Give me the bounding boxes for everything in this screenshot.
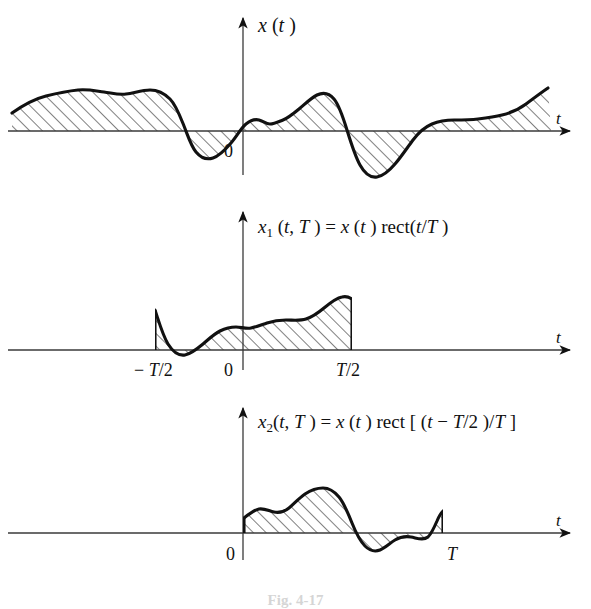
panel-x1-tick-label-t-half: T/2 bbox=[336, 360, 360, 380]
panel-x1: x1 (t, T ) = x (t ) rect(t/T ) t − T/2 0… bbox=[8, 212, 570, 380]
panel-x2-formula-label: x2(t, T ) = x (t ) rect [ (t − T/2 )/T ] bbox=[257, 411, 516, 435]
panel-x1-tick-label-neg-t-half: − T/2 bbox=[134, 360, 173, 380]
panel-xt: x (t ) t 0 bbox=[8, 14, 570, 177]
panel-x1-origin-label: 0 bbox=[224, 360, 233, 380]
panel-x2: x2(t, T ) = x (t ) rect [ (t − T/2 )/T ]… bbox=[8, 408, 570, 564]
panel-xt-origin-label: 0 bbox=[224, 141, 233, 161]
panel-xt-shaded-area bbox=[12, 88, 551, 177]
panel-x2-tick-label-t: T bbox=[447, 544, 459, 564]
panel-x2-shaded-area bbox=[244, 488, 443, 551]
panel-x2-x-axis-label: t bbox=[556, 511, 562, 530]
panel-x1-x-axis-label: t bbox=[556, 328, 562, 347]
panel-x1-formula-label: x1 (t, T ) = x (t ) rect(t/T ) bbox=[257, 216, 448, 240]
panel-x2-origin-label: 0 bbox=[226, 544, 235, 564]
panel-xt-x-axis-label: t bbox=[556, 109, 562, 128]
figure-caption: Fig. 4-17 bbox=[0, 592, 591, 609]
panel-xt-y-axis-label: x (t ) bbox=[257, 14, 296, 37]
